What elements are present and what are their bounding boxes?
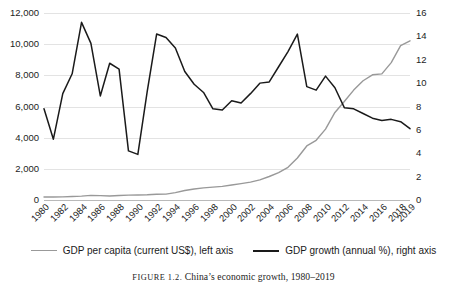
legend-item: GDP per capita (current US$), left axis xyxy=(31,245,233,256)
legend-item: GDP growth (annual %), right axis xyxy=(253,245,436,256)
caption-prefix: FIGURE 1.2. xyxy=(132,273,182,282)
caption-text: China’s economic growth, 1980–2019 xyxy=(185,271,335,282)
figure-caption: FIGURE 1.2. China’s economic growth, 198… xyxy=(0,271,467,282)
left-axis-tick-label: 2,000 xyxy=(15,164,39,174)
right-axis-tick-label: 10 xyxy=(416,78,427,88)
right-axis-tick-label: 16 xyxy=(416,8,427,18)
legend-label: GDP growth (annual %), right axis xyxy=(285,245,436,256)
left-axis-tick-label: 0 xyxy=(34,195,39,205)
plot-area xyxy=(44,13,410,200)
series-lines xyxy=(44,13,410,200)
right-axis-tick-label: 6 xyxy=(416,125,421,135)
chart-legend: GDP per capita (current US$), left axisG… xyxy=(0,245,467,256)
right-axis-tick-label: 2 xyxy=(416,172,421,182)
figure-container: 02,0004,0006,0008,00010,00012,000 024681… xyxy=(0,0,467,291)
right-axis-tick-label: 8 xyxy=(416,102,421,112)
right-axis-tick-label: 4 xyxy=(416,148,421,158)
left-axis-tick-label: 4,000 xyxy=(15,133,39,143)
left-axis-tick-label: 8,000 xyxy=(15,70,39,80)
right-axis: 0246810121416 xyxy=(416,13,456,200)
legend-line-swatch xyxy=(253,250,279,252)
series-line-gdp-per-capita xyxy=(44,41,410,197)
left-axis-tick-label: 6,000 xyxy=(15,102,39,112)
left-axis-tick-label: 10,000 xyxy=(10,39,39,49)
legend-label: GDP per capita (current US$), left axis xyxy=(63,245,233,256)
x-axis: 1980198219841986198819901992199419961998… xyxy=(44,200,410,242)
left-axis: 02,0004,0006,0008,00010,00012,000 xyxy=(0,13,39,200)
legend-line-swatch xyxy=(31,250,57,251)
right-axis-tick-label: 12 xyxy=(416,55,427,65)
right-axis-tick-label: 14 xyxy=(416,31,427,41)
left-axis-tick-label: 12,000 xyxy=(10,8,39,18)
